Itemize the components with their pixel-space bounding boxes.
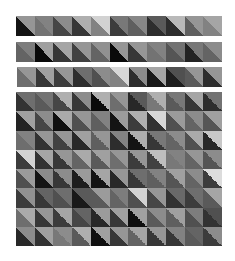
diagonal-tile	[72, 169, 91, 188]
diagonal-tile	[128, 42, 147, 62]
diagonal-tile	[166, 92, 185, 111]
diagonal-tile	[166, 150, 185, 169]
diagonal-tile	[72, 111, 91, 130]
diagonal-tile	[72, 208, 91, 227]
diagonal-tile	[203, 16, 222, 36]
diagonal-tile	[91, 150, 110, 169]
diagonal-tile	[53, 169, 72, 188]
diagonal-tile	[147, 42, 166, 62]
diagonal-tile	[110, 208, 129, 227]
diagonal-tile	[203, 227, 222, 246]
strip-1	[16, 16, 222, 36]
diagonal-tile	[203, 131, 222, 150]
diagonal-tile	[53, 188, 72, 207]
diagonal-tile	[185, 42, 204, 62]
diagonal-tile	[17, 67, 36, 87]
diagonal-tile	[147, 16, 166, 36]
diagonal-tile	[91, 16, 110, 36]
diagonal-tile	[166, 227, 185, 246]
diagonal-tile	[147, 208, 166, 227]
diagonal-tile	[147, 150, 166, 169]
diagonal-tile	[16, 227, 35, 246]
diagonal-tile	[147, 111, 166, 130]
diagonal-tile	[72, 16, 91, 36]
strip-3	[17, 67, 222, 87]
diagonal-tile	[128, 92, 147, 111]
diagonal-tile	[110, 67, 129, 87]
diagonal-tile	[203, 150, 222, 169]
diagonal-tile	[147, 227, 166, 246]
tile-grid	[16, 92, 222, 246]
diagonal-tile	[128, 208, 147, 227]
diagonal-tile	[35, 150, 54, 169]
diagonal-tile	[16, 150, 35, 169]
diagonal-tile	[73, 67, 92, 87]
diagonal-tile	[203, 67, 222, 87]
diagonal-tile	[185, 131, 204, 150]
diagonal-tile	[72, 227, 91, 246]
diagonal-tile	[128, 188, 147, 207]
diagonal-tile	[185, 169, 204, 188]
diagonal-tile	[35, 208, 54, 227]
diagonal-tile	[128, 111, 147, 130]
diagonal-tile	[35, 227, 54, 246]
diagonal-tile	[91, 92, 110, 111]
diagonal-tile	[185, 111, 204, 130]
diagonal-tile	[35, 92, 54, 111]
diagonal-tile	[129, 67, 148, 87]
diagonal-tile	[166, 42, 185, 62]
diagonal-tile	[35, 188, 54, 207]
diagonal-tile	[91, 227, 110, 246]
diagonal-tile	[147, 188, 166, 207]
diagonal-tile	[35, 42, 54, 62]
diagonal-tile	[110, 111, 129, 130]
diagonal-tile	[35, 131, 54, 150]
diagonal-tile	[147, 92, 166, 111]
diagonal-tile	[185, 208, 204, 227]
diagonal-tile	[166, 188, 185, 207]
diagonal-tile	[72, 131, 91, 150]
strip-2	[16, 42, 222, 62]
diagonal-tile	[16, 92, 35, 111]
diagonal-tile	[53, 208, 72, 227]
diagonal-tile	[16, 188, 35, 207]
diagonal-tile	[203, 208, 222, 227]
diagonal-tile	[185, 92, 204, 111]
diagonal-tile	[16, 42, 35, 62]
diagonal-tile	[16, 111, 35, 130]
diagonal-tile	[91, 208, 110, 227]
diagonal-tile	[35, 169, 54, 188]
diagonal-tile	[91, 42, 110, 62]
diagonal-tile	[185, 227, 204, 246]
diagonal-tile	[72, 150, 91, 169]
diagonal-tile	[91, 131, 110, 150]
diagonal-tile	[110, 227, 129, 246]
diagonal-tile	[166, 169, 185, 188]
diagonal-tile	[185, 150, 204, 169]
diagonal-tile	[110, 42, 129, 62]
diagonal-tile	[16, 169, 35, 188]
diagonal-tile	[53, 42, 72, 62]
diagonal-tile	[53, 92, 72, 111]
diagonal-tile	[36, 67, 55, 87]
diagonal-tile	[128, 227, 147, 246]
diagonal-tile	[203, 42, 222, 62]
diagonal-tile	[16, 208, 35, 227]
diagonal-tile	[110, 131, 129, 150]
diagonal-tile	[128, 169, 147, 188]
diagonal-tile	[53, 16, 72, 36]
diagonal-tile	[54, 67, 73, 87]
diagonal-tile	[147, 169, 166, 188]
diagonal-tile	[166, 131, 185, 150]
diagonal-tile	[166, 16, 185, 36]
diagonal-tile	[72, 42, 91, 62]
diagonal-tile	[53, 150, 72, 169]
diagonal-tile	[166, 111, 185, 130]
diagonal-tile	[147, 67, 166, 87]
diagonal-tile	[166, 67, 185, 87]
diagonal-tile	[203, 169, 222, 188]
diagonal-tile	[35, 111, 54, 130]
diagonal-tile	[203, 188, 222, 207]
diagonal-tile	[16, 131, 35, 150]
diagonal-tile	[91, 169, 110, 188]
